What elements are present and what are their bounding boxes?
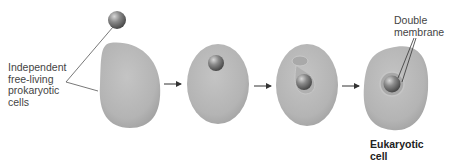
label-line: cells — [8, 97, 66, 109]
eukaryotic-cell-label: Eukaryotic cell — [370, 139, 424, 162]
prokaryote-cell-icon — [296, 74, 312, 90]
prokaryotes-label: Independent free-living prokaryotic cell… — [8, 62, 66, 108]
stage-4-eukaryotic — [364, 38, 429, 130]
label-line: membrane — [394, 27, 444, 39]
label-line: Eukaryotic — [370, 139, 424, 151]
stage-2-engulfed — [187, 44, 249, 124]
prokaryote-cell-icon — [208, 55, 224, 71]
vesicle-icon — [292, 56, 308, 66]
label-line: Double — [394, 15, 444, 27]
label-line: cell — [370, 151, 424, 163]
label-line: prokaryotic — [8, 85, 66, 97]
label-line: Independent — [8, 62, 66, 74]
stage-1-free-prokaryote — [66, 11, 160, 128]
host-cell-icon — [100, 43, 160, 128]
organelle-icon — [384, 76, 401, 93]
prokaryote-cell-icon — [108, 11, 126, 29]
stage-3-membrane-forming — [276, 44, 338, 126]
double-membrane-label: Double membrane — [394, 15, 444, 38]
